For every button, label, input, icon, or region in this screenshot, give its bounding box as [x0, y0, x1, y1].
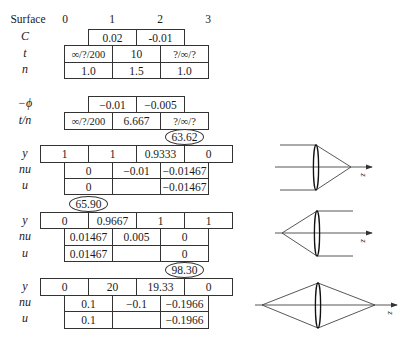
diagram-finite-conjugates	[255, 283, 397, 328]
diagram-object-at-infinity	[275, 145, 372, 190]
ray-diagrams	[0, 0, 408, 342]
axis-label-z-2: z	[359, 239, 369, 243]
axis-label-z-3: z	[386, 311, 396, 315]
axis-label-z-1: z	[359, 173, 369, 177]
diagram-image-at-infinity	[275, 211, 372, 256]
